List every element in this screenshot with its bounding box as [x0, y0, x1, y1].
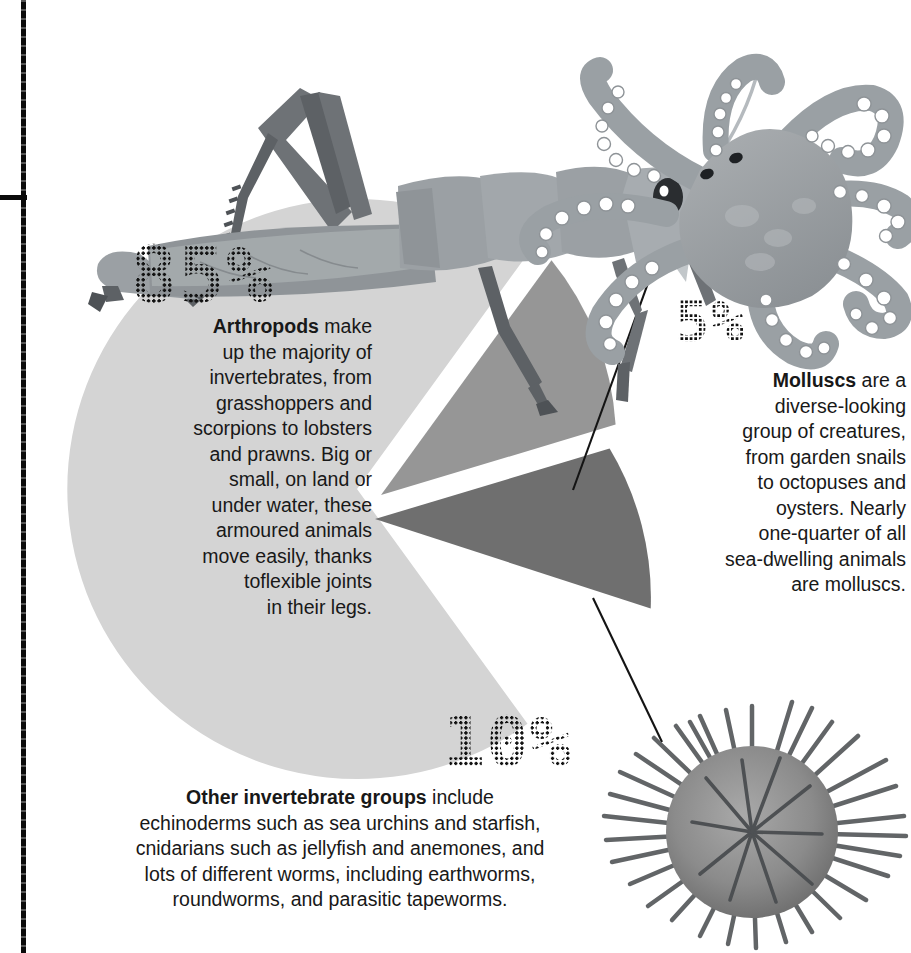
other-line-4: roundworms, and parasitic tapeworms.	[38, 887, 642, 913]
arthropods-line-0: Arthropods make	[72, 314, 372, 340]
other-line-2: cnidarians such as jellyfish and anemone…	[38, 836, 642, 862]
arthropods-line-4: scorpions to lobsters	[72, 416, 372, 442]
arthropods-line-1: up the majority of	[72, 340, 372, 366]
percent-label-molluscs: 5%	[675, 295, 767, 347]
molluscs-line-8: are molluscs.	[660, 572, 906, 598]
molluscs-line-1: diverse-looking	[660, 394, 906, 420]
infographic-page: 85% 5% 10% Arthropods make up the majori…	[0, 0, 911, 953]
percent-label-other: 10%	[443, 710, 572, 774]
book-spine-mark	[21, 0, 26, 953]
other-line-1: echinoderms such as sea urchins and star…	[38, 811, 642, 837]
arthropods-line-5: and prawns. Big or	[72, 442, 372, 468]
other-groups-description: Other invertebrate groups include echino…	[38, 785, 642, 913]
molluscs-line-7: sea-dwelling animals	[660, 547, 906, 573]
book-spine-tick-mark	[0, 195, 27, 200]
percent-label-arthropods: 85%	[130, 240, 274, 312]
molluscs-line-2: group of creatures,	[660, 419, 906, 445]
molluscs-description: Molluscs are a diverse-looking group of …	[660, 368, 906, 598]
molluscs-line-6: one-quarter of all	[660, 521, 906, 547]
arthropods-line-7: under water, these	[72, 493, 372, 519]
arthropods-line-11: in their legs.	[72, 595, 372, 621]
arthropods-line-8: armoured animals	[72, 518, 372, 544]
molluscs-line-5: oysters. Nearly	[660, 496, 906, 522]
other-line-0: Other invertebrate groups include	[38, 785, 642, 811]
molluscs-lead: Molluscs	[773, 369, 856, 391]
arthropods-line-6: small, on land or	[72, 467, 372, 493]
sea-urchin-illustration	[604, 702, 906, 948]
arthropods-line-3: grasshoppers and	[72, 391, 372, 417]
arthropods-line-9: move easily, thanks	[72, 544, 372, 570]
molluscs-line-3: from garden snails	[660, 445, 906, 471]
arthropods-lead: Arthropods	[213, 315, 319, 337]
other-line-3: lots of different worms, including earth…	[38, 862, 642, 888]
molluscs-line-4: to octopuses and	[660, 470, 906, 496]
arthropods-line-2: invertebrates, from	[72, 365, 372, 391]
other-lead: Other invertebrate groups	[186, 786, 427, 808]
molluscs-line-0: Molluscs are a	[660, 368, 906, 394]
arthropods-line-10: toflexible joints	[72, 569, 372, 595]
arthropods-description: Arthropods make up the majority of inver…	[72, 314, 372, 620]
leader-line-other	[593, 598, 662, 742]
